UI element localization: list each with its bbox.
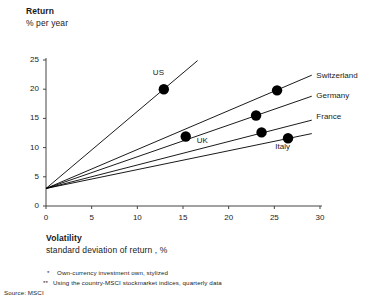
series-label-us: US	[153, 68, 164, 77]
data-point-us[interactable]	[159, 84, 169, 94]
x-tick-label: 0	[36, 213, 56, 222]
x-tick-label: 5	[82, 213, 102, 222]
y-tick-label: 5	[21, 172, 39, 181]
series-label-switzerland: Switzerland	[316, 71, 357, 80]
footnote-1-text: Own-currency investment own, stylized	[57, 269, 168, 276]
footnote-1-marker: *	[47, 269, 57, 276]
series-line-germany	[46, 96, 312, 188]
series-label-france: France	[316, 112, 341, 121]
series-label-germany: Germany	[316, 91, 349, 100]
footnote-2-marker: **	[43, 279, 53, 286]
footnote-2-text: Using the country-MSCI stockmarket indic…	[53, 279, 222, 286]
x-tick-label: 15	[173, 213, 193, 222]
scatter-plot	[0, 0, 379, 299]
x-tick-label: 10	[127, 213, 147, 222]
series-label-uk: UK	[197, 136, 208, 145]
y-tick-label: 0	[21, 201, 39, 210]
series-label-italy: Italy	[275, 142, 290, 151]
x-tick-label: 30	[310, 213, 330, 222]
data-point-switzerland[interactable]	[272, 85, 282, 95]
series-line-switzerland	[46, 75, 312, 188]
series-layer	[46, 61, 312, 189]
data-point-france[interactable]	[256, 127, 266, 137]
series-line-italy	[46, 134, 312, 189]
x-tick-label: 25	[264, 213, 284, 222]
footnote-1: *Own-currency investment own, stylized	[47, 269, 168, 276]
y-tick-label: 25	[21, 55, 39, 64]
y-tick-label: 10	[21, 143, 39, 152]
data-point-germany[interactable]	[251, 110, 261, 120]
data-point-uk[interactable]	[181, 131, 191, 141]
y-tick-label: 15	[21, 113, 39, 122]
x-tick-label: 20	[219, 213, 239, 222]
source-line: Source: MSCI	[4, 289, 44, 296]
footnote-2: **Using the country-MSCI stockmarket ind…	[43, 279, 222, 286]
y-tick-label: 20	[21, 84, 39, 93]
